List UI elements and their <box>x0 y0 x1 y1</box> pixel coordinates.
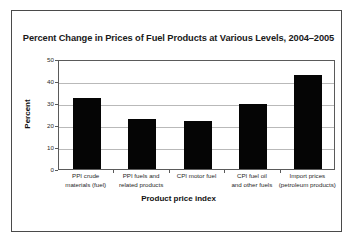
y-axis-tick-mark <box>55 170 58 171</box>
y-axis-tick-label: 50 <box>32 57 54 63</box>
y-axis-tick-label: 40 <box>32 79 54 85</box>
bar <box>294 75 322 169</box>
y-axis-tick-label: 20 <box>32 123 54 129</box>
y-axis-tick-label: 0 <box>32 167 54 173</box>
chart-title: Percent Change in Prices of Fuel Product… <box>0 33 357 43</box>
chart-figure: Percent Change in Prices of Fuel Product… <box>0 0 357 252</box>
y-axis-tick-mark <box>55 148 58 149</box>
y-axis-title: Percent <box>23 84 35 144</box>
y-axis-tick-mark <box>55 126 58 127</box>
x-axis-tick-label: (petroleum products) <box>275 181 340 190</box>
x-axis-category: Import prices(petroleum products) <box>275 172 340 189</box>
y-axis-tick-mark <box>55 104 58 105</box>
y-axis-tick-mark <box>55 82 58 83</box>
plot-area <box>58 60 335 170</box>
x-axis-title: Product price index <box>0 194 357 203</box>
x-axis-tick-label: related products <box>108 181 173 190</box>
y-axis-tick-label: 10 <box>32 145 54 151</box>
bar <box>239 104 267 169</box>
bar <box>184 121 212 169</box>
x-axis-tick-label: Import prices <box>275 172 340 181</box>
bar <box>73 98 101 169</box>
gridline <box>59 83 334 84</box>
y-axis-tick-label: 30 <box>32 101 54 107</box>
bar <box>128 119 156 169</box>
y-axis-tick-mark <box>55 60 58 61</box>
